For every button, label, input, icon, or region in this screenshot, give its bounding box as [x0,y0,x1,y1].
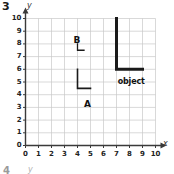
x-tick-label: 9 [137,151,149,158]
y-tick-label: 3 [10,104,22,111]
y-tick-label: 9 [10,28,22,35]
y-tick-label: 5 [10,79,22,86]
y-tick-label: 4 [10,91,22,98]
object-label: object [118,78,145,86]
y-tick-label: 0 [10,142,22,149]
y-tick-label: 10 [10,15,22,22]
x-tick-label: 0 [20,151,32,158]
shape-a [78,69,91,88]
x-tick-label: 3 [59,151,71,158]
y-tick-label: 6 [10,66,22,73]
y-tick-label: 8 [10,40,22,47]
y-axis-label: y [27,2,32,10]
x-tick-label: 4 [72,151,84,158]
x-tick-label: 8 [124,151,136,158]
y-tick-label: 1 [10,129,22,136]
plot-svg [0,0,174,174]
x-tick-label: 5 [85,151,97,158]
next-problem-number: 4 [3,166,10,174]
x-tick-label: 2 [46,151,58,158]
y-tick-label: 2 [10,117,22,124]
x-tick-label: 7 [111,151,123,158]
next-figure-sliver: 4 y [0,166,174,174]
next-y-axis-label: y [28,166,33,174]
x-tick-label: 1 [33,151,45,158]
coordinate-grid-plot [0,0,174,174]
x-tick-label: 6 [98,151,110,158]
x-axis-label: x [163,140,168,148]
y-tick-label: 7 [10,53,22,60]
shape-label-a: A [84,100,91,109]
shape-label-b: B [74,36,81,45]
x-tick-label: 10 [150,151,162,158]
figure-container: 3 y x 012345678910 012345678910 B A obje… [0,0,174,174]
